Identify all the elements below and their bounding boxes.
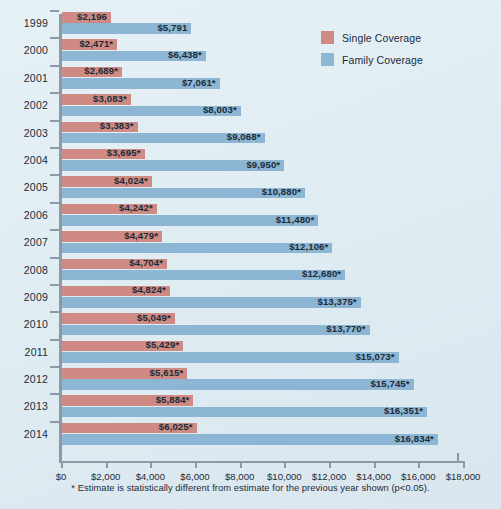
bar-value-label: $11,480* xyxy=(276,214,315,225)
y-axis-label: 2009 xyxy=(0,291,48,303)
bar-family-coverage[interactable]: $11,480* xyxy=(62,215,464,226)
bar-group: $2,471*$6,438* xyxy=(62,39,464,61)
y-axis-tick xyxy=(50,366,59,368)
chart-row: 2007$4,479*$12,106* xyxy=(0,229,501,256)
bar-family-coverage[interactable]: $12,680* xyxy=(62,270,464,281)
bar-single-coverage[interactable]: $3,083* xyxy=(62,94,464,105)
y-axis-label: 2004 xyxy=(0,154,48,166)
y-axis-tick xyxy=(50,339,59,341)
bar-family-coverage[interactable]: $12,106* xyxy=(62,243,464,254)
bar-value-label: $2,471* xyxy=(79,38,113,49)
x-axis-label: $2,000 xyxy=(91,471,120,482)
x-axis-tick xyxy=(374,461,376,468)
bar-group: $5,615*$15,745* xyxy=(62,368,464,390)
x-axis-label: $6,000 xyxy=(180,471,209,482)
bar-value-label: $12,106* xyxy=(289,241,328,252)
bar-family-coverage[interactable]: $5,791 xyxy=(62,23,464,34)
y-axis-tick xyxy=(50,202,59,204)
bar-single-coverage[interactable]: $3,383* xyxy=(62,122,464,133)
bar-value-label: $3,383* xyxy=(100,120,134,131)
bar-value-label: $5,884* xyxy=(156,394,190,405)
x-axis-tick xyxy=(61,461,63,468)
y-axis-tick xyxy=(50,10,59,12)
bar-group: $4,704*$12,680* xyxy=(62,259,464,281)
chart-row: 2010$5,049*$13,770* xyxy=(0,311,501,338)
bar-group: $5,884*$16,351* xyxy=(62,395,464,417)
x-axis-tick xyxy=(418,461,420,468)
bar-value-label: $16,834* xyxy=(395,433,434,444)
bar-value-label: $8,003* xyxy=(203,104,237,115)
bar-family-coverage[interactable]: $15,073* xyxy=(62,352,464,363)
bar-single-coverage[interactable]: $2,471* xyxy=(62,39,464,50)
y-axis-tick xyxy=(50,393,59,395)
bar-value-label: $6,025* xyxy=(159,421,193,432)
y-axis-tick xyxy=(50,65,59,67)
bar-family-coverage[interactable]: $9,950* xyxy=(62,160,464,171)
y-axis-tick xyxy=(50,229,59,231)
y-axis-label: 2013 xyxy=(0,400,48,412)
bar-family-coverage[interactable]: $15,745* xyxy=(62,379,464,390)
bar-single-coverage[interactable]: $4,824* xyxy=(62,286,464,297)
x-axis-tick xyxy=(463,461,465,468)
y-axis-label: 2005 xyxy=(0,181,48,193)
bar-value-label: $7,061* xyxy=(182,77,216,88)
bar-family-coverage[interactable]: $10,880* xyxy=(62,188,464,199)
x-axis-label: $10,000 xyxy=(267,471,302,482)
bar-group: $5,049*$13,770* xyxy=(62,313,464,335)
bar-family-coverage[interactable]: $16,351* xyxy=(62,407,464,418)
bar-value-label: $15,745* xyxy=(370,378,409,389)
x-axis-label: $0 xyxy=(56,471,67,482)
bar-group: $3,383*$9,068* xyxy=(62,122,464,144)
chart-row: 2005$4,024*$10,880* xyxy=(0,174,501,201)
bar-group: $3,695*$9,950* xyxy=(62,149,464,171)
bar-family-coverage[interactable]: $16,834* xyxy=(62,434,464,445)
chart-row: 2003$3,383*$9,068* xyxy=(0,120,501,147)
bar-value-label: $4,824* xyxy=(132,284,166,295)
bar-single-coverage[interactable]: $4,704* xyxy=(62,259,464,270)
bar-value-label: $6,438* xyxy=(168,49,202,60)
bar-group: $6,025*$16,834* xyxy=(62,423,464,445)
plot-area: 1999$2,196$5,7912000$2,471*$6,438*2001$2… xyxy=(0,10,501,455)
chart-row: 2009$4,824*$13,375* xyxy=(0,284,501,311)
bar-group: $4,479*$12,106* xyxy=(62,231,464,253)
bar-value-label: $4,242* xyxy=(119,202,153,213)
bar-family-coverage[interactable]: $8,003* xyxy=(62,106,464,117)
bar-single-coverage[interactable]: $4,242* xyxy=(62,204,464,215)
bar-fill xyxy=(62,325,370,336)
bar-value-label: $15,073* xyxy=(355,351,394,362)
bar-value-label: $16,351* xyxy=(384,405,423,416)
x-axis-tick xyxy=(240,461,242,468)
x-axis-tick xyxy=(284,461,286,468)
bar-value-label: $4,704* xyxy=(129,257,163,268)
x-axis-tick xyxy=(106,461,108,468)
bar-value-label: $13,375* xyxy=(317,296,356,307)
bar-value-label: $2,689* xyxy=(84,65,118,76)
bar-family-coverage[interactable]: $13,770* xyxy=(62,325,464,336)
bar-single-coverage[interactable]: $5,049* xyxy=(62,313,464,324)
bar-family-coverage[interactable]: $9,068* xyxy=(62,133,464,144)
bar-family-coverage[interactable]: $13,375* xyxy=(62,297,464,308)
chart-row: 2000$2,471*$6,438* xyxy=(0,37,501,64)
bar-family-coverage[interactable]: $7,061* xyxy=(62,78,464,89)
y-axis-label: 2003 xyxy=(0,127,48,139)
chart-row: 2002$3,083*$8,003* xyxy=(0,92,501,119)
y-axis-label: 2001 xyxy=(0,72,48,84)
y-axis-label: 2012 xyxy=(0,373,48,385)
y-axis-tick xyxy=(50,421,59,423)
bar-single-coverage[interactable]: $2,689* xyxy=(62,67,464,78)
y-axis-tick xyxy=(50,120,59,122)
bar-family-coverage[interactable]: $6,438* xyxy=(62,51,464,62)
bar-single-coverage[interactable]: $5,429* xyxy=(62,341,464,352)
x-axis-tick xyxy=(329,461,331,468)
bar-value-label: $5,791 xyxy=(157,22,187,33)
x-axis-label: $4,000 xyxy=(136,471,165,482)
bar-single-coverage[interactable]: $2,196 xyxy=(62,12,464,23)
chart-row: 2006$4,242*$11,480* xyxy=(0,202,501,229)
x-axis-tick xyxy=(150,461,152,468)
bar-single-coverage[interactable]: $4,479* xyxy=(62,231,464,242)
y-axis-tick xyxy=(50,284,59,286)
y-axis-tick xyxy=(50,257,59,259)
chart-row: 2012$5,615*$15,745* xyxy=(0,366,501,393)
bar-value-label: $5,049* xyxy=(137,312,171,323)
bar-value-label: $9,950* xyxy=(246,159,280,170)
